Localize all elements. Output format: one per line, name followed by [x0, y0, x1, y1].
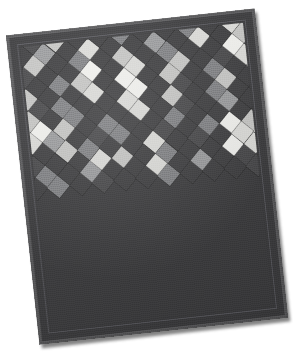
quilt-binding — [5, 8, 287, 344]
quilt-patch — [268, 50, 273, 72]
quilt-patch — [263, 22, 273, 28]
quilt-patch — [20, 22, 40, 32]
quilt-patch — [261, 84, 273, 106]
quilt-patchwork-field — [20, 22, 273, 330]
quilt-patch — [20, 157, 23, 179]
image-caption: Patchwork quilt photographed at a slight… — [0, 0, 1, 1]
quilt-patch — [84, 22, 106, 25]
quilt-patch — [271, 72, 274, 94]
quilt-patch — [53, 22, 75, 39]
quilt — [5, 8, 287, 344]
quilt-patch — [266, 28, 273, 50]
quilt-patch — [40, 22, 62, 30]
photo-canvas: Patchwork quilt photographed at a slight… — [0, 0, 293, 352]
quilt-patch — [62, 22, 84, 27]
quilt-patch — [20, 179, 25, 201]
quilt-patch — [258, 62, 273, 84]
quilt-patch — [20, 23, 31, 45]
quilt-border — [9, 11, 285, 341]
quilt-patch — [30, 22, 52, 42]
